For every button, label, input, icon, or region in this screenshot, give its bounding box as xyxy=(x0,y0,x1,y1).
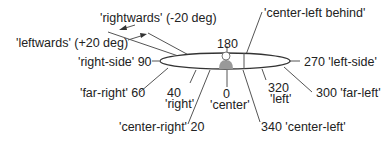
far-right-label: 'far-right' 60 xyxy=(80,86,145,100)
center-word-label: 'center' xyxy=(210,98,250,112)
right-side-label: 'right-side' 90 xyxy=(78,55,152,69)
center-right-label: 'center-right' 20 xyxy=(119,120,204,134)
rightwards-label: 'rightwards' (-20 deg) xyxy=(100,11,217,25)
line-340 xyxy=(243,70,260,122)
leftwards-label: 'leftwards' (+20 deg) xyxy=(16,36,128,50)
behind-num-label: 180 xyxy=(217,37,238,51)
center-left-behind-label: 'center-left behind' xyxy=(264,6,365,20)
line-320 xyxy=(262,69,266,80)
rightwards-arrow-icon xyxy=(119,25,135,30)
azimuth-diagram: 'rightwards' (-20 deg) 'leftwards' (+20 … xyxy=(0,0,390,143)
far-left-label: 300 'far-left' xyxy=(316,86,381,100)
left-word-label: 'left' xyxy=(270,92,291,106)
left-side-label: 270 'left-side' xyxy=(304,55,377,69)
right-word-label: 'right' xyxy=(165,97,194,111)
center-left-label: 340 'center-left' xyxy=(261,120,346,134)
leftwards-arrow-icon xyxy=(128,33,147,40)
line-40 xyxy=(190,70,196,83)
